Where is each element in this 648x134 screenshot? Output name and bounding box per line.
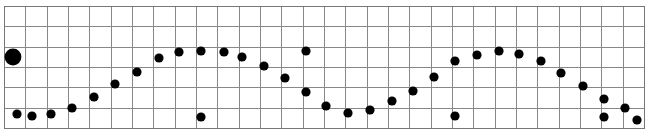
data-point [578,81,587,90]
data-point [472,50,481,59]
data-point [110,79,119,88]
data-point [27,111,36,120]
data-point [494,46,503,55]
data-point [67,103,76,112]
data-point [12,109,21,118]
data-point [429,72,438,81]
data-points [5,46,642,124]
data-point [46,109,55,118]
data-point [556,68,565,77]
data-point [408,86,417,95]
data-point [620,103,629,112]
data-point [343,108,352,117]
data-point [259,61,268,70]
data-point [387,96,396,105]
data-point [301,46,310,55]
data-point [450,111,459,120]
data-point [599,94,608,103]
data-point [450,56,459,65]
data-point [365,105,374,114]
data-point [174,47,183,56]
chart-canvas [0,0,648,134]
data-point [599,112,608,121]
scatter-plot-figure [0,0,648,134]
data-point [536,56,545,65]
series-wave [5,46,630,118]
data-point [301,87,310,96]
series-baseline [12,46,641,124]
data-point [219,47,228,56]
data-point [132,67,141,76]
data-point [237,52,246,61]
data-point [154,53,163,62]
data-point [632,115,641,124]
data-point [196,112,205,121]
data-point [196,46,205,55]
data-point [514,49,523,58]
data-point [280,73,289,82]
data-point [321,101,330,110]
data-point [5,49,22,66]
data-point [89,92,98,101]
